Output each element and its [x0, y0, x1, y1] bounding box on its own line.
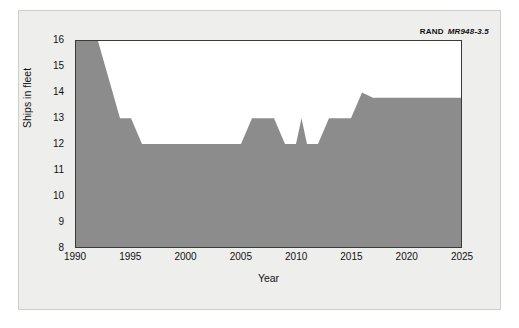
- x-tick-label: 2015: [340, 252, 362, 262]
- rand-org-label: RAND: [420, 27, 444, 36]
- ships-in-fleet-area: [76, 41, 461, 247]
- y-tick-label: 11: [34, 165, 70, 175]
- x-tick-label: 2010: [285, 252, 307, 262]
- y-tick-label: 14: [34, 87, 70, 97]
- x-tick-label: 2025: [451, 252, 473, 262]
- x-axis-title: Year: [75, 272, 462, 284]
- x-tick-label: 2000: [174, 252, 196, 262]
- plot-area: [75, 40, 462, 248]
- y-tick-label: 9: [34, 217, 70, 227]
- y-tick-label: 16: [34, 35, 70, 45]
- y-tick-label: 15: [34, 61, 70, 71]
- y-axis-title: Ships in fleet: [21, 43, 33, 153]
- y-tick-label: 13: [34, 113, 70, 123]
- chart-figure: RANDMR948-3.5 Ships in fleet 89101112131…: [0, 0, 519, 328]
- rand-document-id: MR948-3.5: [448, 27, 489, 36]
- x-tick-label: 2020: [396, 252, 418, 262]
- x-tick-label: 1990: [64, 252, 86, 262]
- area-chart-svg: [76, 41, 461, 247]
- y-axis-tick-labels: 8910111213141516: [40, 40, 70, 248]
- x-tick-label: 2005: [230, 252, 252, 262]
- y-tick-label: 12: [34, 139, 70, 149]
- rand-source-credit: RANDMR948-3.5: [420, 27, 489, 36]
- x-tick-label: 1995: [119, 252, 141, 262]
- y-tick-label: 10: [34, 191, 70, 201]
- x-axis-tick-labels: 19901995200020052010201520202025: [75, 252, 462, 268]
